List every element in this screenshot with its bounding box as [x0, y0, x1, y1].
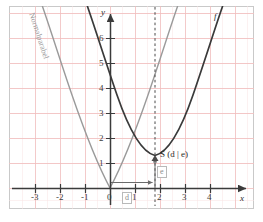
x-tick-label: 0 [107, 193, 112, 202]
x-tick-label: -2 [56, 193, 64, 202]
vertex-point-label: S (d | e) [160, 150, 188, 159]
y-axis-label: y [101, 8, 105, 17]
y-tick-label: 5 [99, 59, 104, 68]
f-curve-label: f [214, 12, 217, 21]
y-tick-label: 2 [99, 134, 104, 143]
x-tick-label: 3 [182, 193, 187, 202]
x-tick-label: 1 [132, 193, 137, 202]
figure-canvas: -3 -2 -1 0 1 2 3 4 1 2 3 4 5 6 x y f Nor… [0, 0, 263, 222]
y-tick-label: 1 [99, 159, 104, 168]
y-tick-label: 3 [99, 109, 104, 118]
x-axis-label: x [240, 194, 244, 203]
d-measure-label: d [122, 192, 132, 204]
x-tick-label: 4 [207, 193, 212, 202]
y-tick-label: 6 [99, 34, 104, 43]
outer-frame [10, 7, 254, 209]
x-tick-label: 2 [157, 193, 162, 202]
x-tick-label: -3 [31, 193, 39, 202]
e-measure-label: e [157, 166, 167, 178]
y-tick-label: 4 [99, 84, 104, 93]
x-tick-label: -1 [81, 193, 89, 202]
